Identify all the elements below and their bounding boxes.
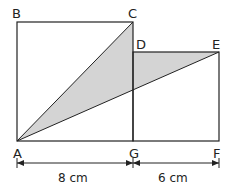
dimension-ag-label: 8 cm — [58, 171, 88, 185]
label-g: G — [129, 146, 139, 161]
label-b: B — [12, 6, 21, 21]
label-e: E — [212, 37, 220, 52]
label-d: D — [136, 37, 146, 52]
geometry-figure: B C D E A G F 8 cm 6 cm — [0, 0, 230, 190]
label-c: C — [128, 6, 137, 21]
dimension-ag — [17, 158, 219, 168]
dimension-gf-label: 6 cm — [158, 171, 188, 185]
shaded-region — [17, 22, 219, 141]
